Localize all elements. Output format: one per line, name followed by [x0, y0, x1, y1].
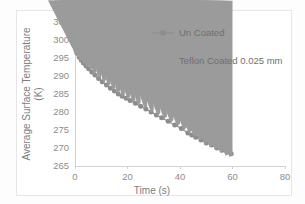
x-axis-title: Time (s)	[134, 185, 170, 196]
x-tick-label: 40	[175, 171, 186, 182]
chart-canvas: 265270275280285290295300305 020406080 Un…	[0, 0, 305, 204]
legend-item-teflon-coated: Teflon Coated 0.025 mm	[160, 55, 283, 66]
legend-label-un-coated: Un Coated	[179, 27, 224, 38]
series-teflon-coated	[48, 0, 233, 157]
y-tick-label: 275	[53, 124, 69, 135]
y-axis-title-line1: Average Surface Temperature	[21, 27, 32, 160]
x-tick-label: 60	[227, 171, 238, 182]
y-tick-label: 295	[53, 52, 69, 63]
y-tick-label: 290	[53, 70, 69, 81]
x-tick-label: 20	[122, 171, 133, 182]
y-tick-label: 285	[53, 88, 69, 99]
y-tick-label: 265	[53, 160, 69, 171]
data-series-layer	[48, 0, 234, 157]
y-tick-label: 280	[53, 106, 69, 117]
y-axis-tick-labels: 265270275280285290295300305	[53, 16, 69, 171]
data-point-circle	[138, 104, 143, 109]
x-axis-tick-labels: 020406080	[72, 171, 290, 182]
chart-figure: 265270275280285290295300305 020406080 Un…	[0, 0, 305, 204]
x-tick-label: 80	[280, 171, 291, 182]
y-axis-title-line2: (K)	[33, 87, 44, 100]
legend-label-teflon-coated: Teflon Coated 0.025 mm	[179, 55, 283, 66]
legend-marker-circle	[160, 30, 166, 36]
x-tick-label: 0	[72, 171, 77, 182]
y-tick-label: 270	[53, 142, 69, 153]
